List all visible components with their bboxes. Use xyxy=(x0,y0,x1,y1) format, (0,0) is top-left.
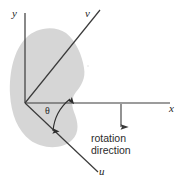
rotation-direction-line1: rotation xyxy=(91,132,131,144)
coordinate-rotation-figure: y v x u θ rotation direction xyxy=(0,0,182,184)
shaded-region xyxy=(10,28,85,147)
rotation-direction-annotation: rotation direction xyxy=(91,132,131,156)
axis-label-v: v xyxy=(85,8,90,19)
region-speck xyxy=(87,65,89,67)
angle-label-theta: θ xyxy=(45,106,50,116)
axis-label-y: y xyxy=(12,8,17,19)
rotation-direction-line2: direction xyxy=(91,144,131,156)
axis-label-u: u xyxy=(99,166,105,177)
figure-canvas xyxy=(0,0,182,184)
axis-label-x: x xyxy=(169,103,174,114)
